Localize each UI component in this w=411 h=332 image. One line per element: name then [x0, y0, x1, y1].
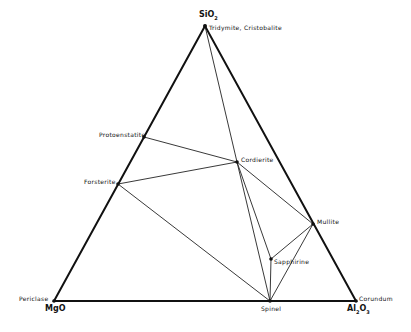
al-text: Al — [347, 304, 356, 313]
point-forsterite — [116, 182, 120, 186]
o-subscript: 3 — [366, 309, 369, 315]
point-spinel — [268, 299, 272, 303]
label-spinel: Spinel — [261, 305, 281, 312]
point-sapphirine — [269, 257, 273, 261]
tie-protoenstatite-cordierite — [144, 137, 237, 162]
point-mullite — [311, 222, 315, 226]
tie-forsterite-spinel — [118, 184, 270, 301]
sio2-subscript: 2 — [214, 15, 217, 21]
label-mgo: MgO — [45, 304, 66, 313]
label-mullite: Mullite — [317, 218, 339, 225]
tie-cordierite-sapphirine — [237, 162, 271, 259]
point-al2o3 — [354, 299, 358, 303]
point-cordierite — [235, 160, 239, 164]
tie-cordierite-spinel — [237, 162, 270, 301]
label-tridymite-cristobalite: Tridymite, Cristobalite — [209, 24, 282, 31]
label-sio2: SiO2 — [199, 10, 218, 21]
label-forsterite: Forsterite — [84, 178, 116, 185]
tie-forsterite-cordierite — [118, 162, 237, 184]
label-protoenstatite: Protoenstatite — [99, 131, 145, 138]
ternary-diagram — [0, 0, 411, 332]
tie-mullite-sapphirine — [271, 224, 313, 259]
phase-points — [52, 24, 358, 303]
label-sapphirine: Sapphirine — [274, 258, 309, 265]
label-al2o3: Al2O3 — [347, 304, 370, 315]
tie-cordierite-mullite — [237, 162, 313, 224]
label-cordierite: Cordierite — [241, 156, 274, 163]
point-sio2 — [203, 24, 207, 28]
tie-sio2-cordierite — [205, 26, 237, 162]
label-periclase: Periclase — [19, 295, 48, 302]
label-corundum: Corundum — [359, 295, 393, 302]
tie-sapphirine-spinel — [270, 259, 271, 301]
sio2-text: SiO — [199, 10, 214, 19]
triangle-outline — [54, 26, 356, 301]
point-mgo — [52, 299, 56, 303]
